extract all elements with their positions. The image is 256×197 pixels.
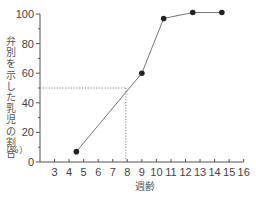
y-tick-label: 100 — [16, 8, 34, 20]
y-tick-label: 20 — [22, 126, 34, 138]
y-axis-label: 弁別を示した乳児の割合 — [4, 36, 18, 159]
data-point — [190, 10, 196, 16]
x-tick-label: 16 — [238, 166, 250, 178]
y-tick-label: 80 — [22, 38, 34, 50]
x-tick-label: 5 — [81, 166, 87, 178]
x-tick-label: 10 — [150, 166, 162, 178]
x-axis-label: 週齢 — [135, 180, 155, 192]
x-tick-label: 14 — [208, 166, 220, 178]
x-tick-label: 13 — [194, 166, 206, 178]
x-tick-label: 3 — [51, 166, 57, 178]
data-point — [139, 70, 145, 76]
x-tick-label: 12 — [179, 166, 191, 178]
data-point — [161, 16, 167, 22]
line-chart: 020406080100345678910111213141516週齢 — [0, 0, 256, 197]
x-tick-label: 4 — [66, 166, 72, 178]
y-tick-label: 0 — [28, 156, 34, 168]
x-tick-label: 15 — [223, 166, 235, 178]
y-tick-label: 40 — [22, 97, 34, 109]
y-tick-label: 60 — [22, 67, 34, 79]
data-point — [219, 10, 225, 16]
series-line — [76, 13, 222, 152]
data-point — [74, 149, 80, 155]
y-axis-unit: （%） — [1, 143, 28, 156]
x-tick-label: 7 — [110, 166, 116, 178]
x-tick-label: 6 — [95, 166, 101, 178]
x-tick-label: 11 — [165, 166, 176, 178]
x-tick-label: 8 — [124, 166, 130, 178]
x-tick-label: 9 — [139, 166, 145, 178]
